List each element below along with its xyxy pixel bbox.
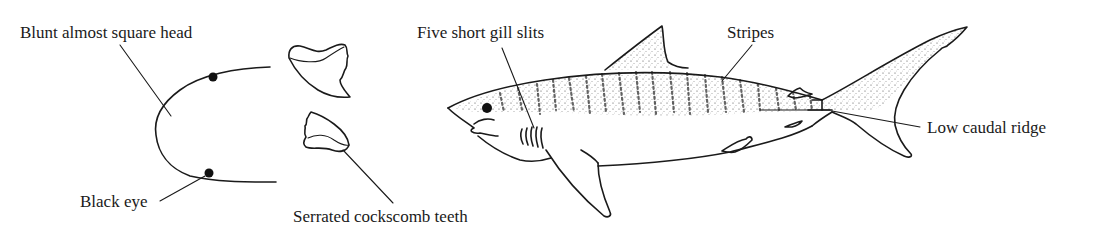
head-outline-drawing [120,45,276,201]
label-caudal-ridge: Low caudal ridge [927,119,1046,136]
ridge-leader-line [832,111,920,127]
gill-slits [521,127,543,148]
head-leader-line [120,45,171,116]
shark-eye-icon [482,103,492,113]
label-serrated-teeth: Serrated cockscomb teeth [293,208,468,225]
label-black-eye: Black eye [80,193,148,210]
label-gill-slits: Five short gill slits [417,24,544,41]
stripes-leader-line [722,45,752,81]
eye-leader-line [160,176,205,201]
tiger-shark-diagram: Blunt almost square head Black eye Serra… [0,0,1097,236]
teeth-drawing [289,44,393,203]
label-blunt-head: Blunt almost square head [20,24,192,41]
shark-drawing [448,26,967,217]
label-stripes: Stripes [727,24,774,41]
eye-dot-bottom-icon [205,169,214,178]
teeth-leader-line [343,150,393,203]
eye-dot-top-icon [209,73,218,82]
